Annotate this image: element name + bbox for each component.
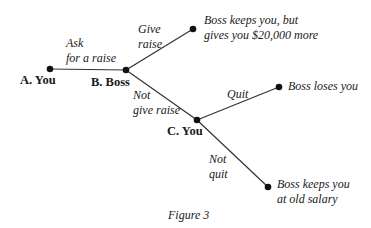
node-b-dot <box>123 67 130 74</box>
edge-not-quit-label-line2: quit <box>209 168 228 181</box>
node-c-dot <box>194 117 201 124</box>
outcome-old-salary-line1: Boss keeps you <box>277 178 350 191</box>
node-a-label: A. You <box>20 74 56 87</box>
outcome-loses-dot <box>276 84 283 91</box>
edge-not-quit-label-line1: Not <box>209 153 226 166</box>
edge-ask-label-line1: Ask <box>66 37 83 50</box>
outcome-raise-line1: Boss keeps you, but <box>204 14 298 27</box>
edge-not-quit <box>197 120 268 187</box>
edge-not-give-label-line1: Not <box>133 89 150 102</box>
node-b-label: B. Boss <box>91 76 130 89</box>
outcome-old-salary-line2: at old salary <box>277 193 338 206</box>
outcome-raise-dot <box>190 26 197 33</box>
edge-give-label-line2: raise <box>138 38 162 51</box>
edge-not-give-label-line2: give raise <box>133 104 180 117</box>
outcome-old-salary-dot <box>265 184 272 191</box>
edge-quit-label: Quit <box>227 88 248 101</box>
edge-ask-for-raise <box>50 69 126 70</box>
edge-give-label-line1: Give <box>138 23 161 36</box>
node-a-dot <box>47 66 54 73</box>
figure-caption: Figure 3 <box>168 209 209 222</box>
node-c-label: C. You <box>167 125 203 138</box>
outcome-raise-line2: gives you $20,000 more <box>204 29 318 42</box>
outcome-loses-label: Boss loses you <box>288 80 358 93</box>
edge-ask-label-line2: for a raise <box>66 52 116 65</box>
